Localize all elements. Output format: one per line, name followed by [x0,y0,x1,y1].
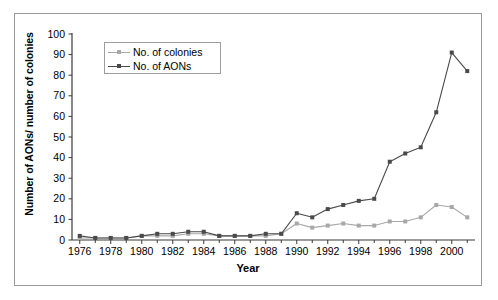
aons-marker [217,234,221,238]
aons-marker [109,236,113,240]
aons-marker [372,197,376,201]
legend-swatch-aons [108,61,130,71]
aons-marker [388,160,392,164]
legend: No. of colonies No. of AONs [104,42,221,74]
colonies-marker [403,219,407,223]
aons-marker [357,199,361,203]
aons-marker [264,232,268,236]
aons-marker [310,215,314,219]
legend-label-colonies: No. of colonies [133,46,202,58]
colonies-marker [388,219,392,223]
colonies-marker [465,215,469,219]
legend-swatch-colonies [108,47,130,57]
colonies-marker [341,222,345,226]
aons-marker [140,234,144,238]
legend-label-aons: No. of AONs [133,60,191,72]
colonies-line [80,205,468,238]
aons-marker [434,110,438,114]
plot-svg [15,14,483,287]
aons-marker [419,145,423,149]
aons-marker [124,236,128,240]
aons-marker [186,230,190,234]
colonies-marker [357,224,361,228]
aons-marker [93,236,97,240]
aons-marker [403,151,407,155]
colonies-marker [326,224,330,228]
colonies-marker [310,226,314,230]
aons-marker [171,232,175,236]
aons-marker [202,230,206,234]
aons-marker [155,232,159,236]
aons-marker [248,234,252,238]
colonies-marker [450,205,454,209]
plot-area [15,14,483,287]
colonies-marker [295,222,299,226]
aons-marker [295,211,299,215]
aons-marker [465,69,469,73]
aons-marker [233,234,237,238]
aons-marker [341,203,345,207]
aons-line [80,53,468,238]
aons-marker [279,232,283,236]
colonies-marker [419,215,423,219]
colonies-marker [372,224,376,228]
figure-frame: Number of AONs/ number of colonies Year … [14,13,482,286]
aons-marker [78,234,82,238]
legend-item-colonies: No. of colonies [108,45,217,59]
colonies-marker [434,203,438,207]
legend-item-aons: No. of AONs [108,59,217,73]
aons-marker [326,207,330,211]
aons-marker [450,51,454,55]
